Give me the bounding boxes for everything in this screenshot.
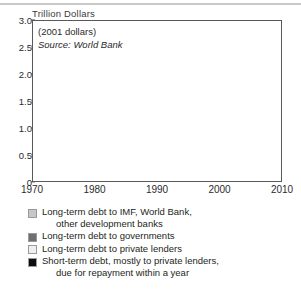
- legend-label-0-line2: other development banks: [42, 218, 192, 230]
- legend-label-2-line1: Long-term debt to private lenders: [42, 243, 182, 254]
- x-tick-label-2010: 2010: [271, 184, 293, 195]
- y-tick-label-0.5: 0.5: [6, 150, 32, 161]
- chart-legend: Long-term debt to IMF, World Bank, other…: [28, 206, 293, 279]
- legend-label-1: Long-term debt to governments: [42, 230, 175, 242]
- x-tick-label-1970: 1970: [21, 184, 43, 195]
- legend-item-3: Short-term debt, mostly to private lende…: [28, 255, 293, 278]
- y-tick-label-2.5: 2.5: [6, 42, 32, 53]
- legend-label-2: Long-term debt to private lenders: [42, 243, 182, 255]
- y-tick-label-1.0: 1.0: [6, 123, 32, 134]
- legend-item-2: Long-term debt to private lenders: [28, 243, 293, 255]
- legend-label-0-line1: Long-term debt to IMF, World Bank,: [42, 206, 192, 217]
- debt-stacked-area-figure: Trillion Dollars 00.51.01.52.02.53.0 (20…: [0, 0, 301, 305]
- legend-label-3-line1: Short-term debt, mostly to private lende…: [42, 255, 219, 266]
- plot-annotation: (2001 dollars) Source: World Bank: [38, 26, 122, 51]
- y-axis: 00.51.01.52.02.53.0: [0, 20, 32, 182]
- legend-label-3: Short-term debt, mostly to private lende…: [42, 255, 219, 278]
- y-tick-label-3.0: 3.0: [6, 15, 32, 26]
- legend-item-0: Long-term debt to IMF, World Bank, other…: [28, 206, 293, 229]
- y-tick-label-1.5: 1.5: [6, 96, 32, 107]
- legend-label-1-line1: Long-term debt to governments: [42, 230, 175, 241]
- legend-item-1: Long-term debt to governments: [28, 230, 293, 242]
- legend-swatch-private-longterm-icon: [28, 245, 37, 254]
- y-tick-label-2.0: 2.0: [6, 69, 32, 80]
- legend-swatch-shortterm-icon: [28, 258, 37, 267]
- annotation-dollars: (2001 dollars): [38, 26, 122, 39]
- legend-swatch-governments-icon: [28, 233, 37, 242]
- legend-swatch-multilateral-icon: [28, 209, 37, 218]
- x-tick-label-2000: 2000: [208, 184, 230, 195]
- x-tick-label-1990: 1990: [146, 184, 168, 195]
- x-tick-label-1980: 1980: [83, 184, 105, 195]
- x-axis: 19701980199020002010: [32, 182, 288, 202]
- legend-label-3-line2: due for repayment within a year: [42, 267, 219, 279]
- legend-label-0: Long-term debt to IMF, World Bank, other…: [42, 206, 192, 229]
- annotation-source: Source: World Bank: [38, 39, 122, 52]
- y-axis-title: Trillion Dollars: [32, 8, 95, 19]
